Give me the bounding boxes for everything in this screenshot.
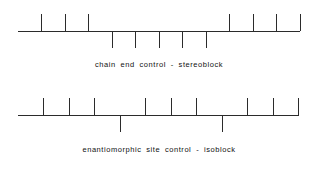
- chain-diagram-stereoblock: [0, 0, 318, 56]
- chain-backbone-stereoblock: [0, 0, 318, 56]
- caption-isoblock: enantiomorphic site control - isoblock: [0, 145, 318, 154]
- caption-stereoblock: chain end control - stereoblock: [0, 60, 318, 69]
- chain-diagram-isoblock: [0, 88, 318, 142]
- figure-isoblock: enantiomorphic site control - isoblock: [0, 88, 318, 175]
- figure-stereoblock: chain end control - stereoblock: [0, 0, 318, 88]
- chain-backbone-isoblock: [0, 88, 318, 142]
